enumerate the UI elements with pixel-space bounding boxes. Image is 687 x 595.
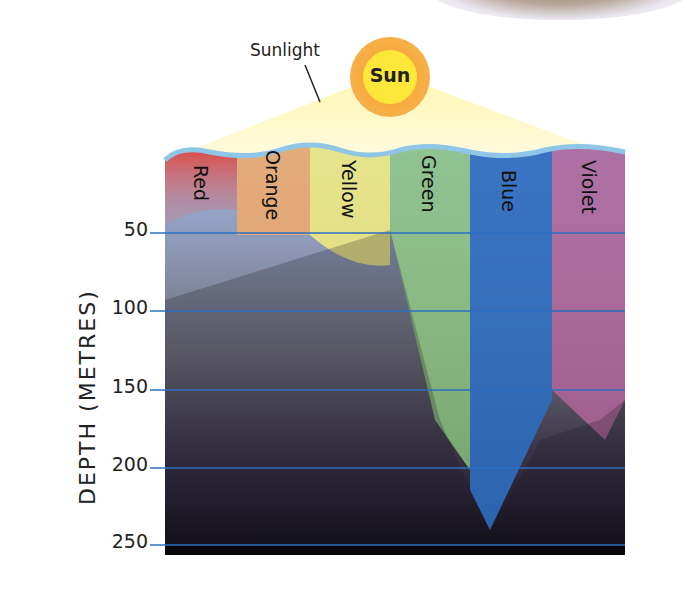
tick-150: 150 (88, 375, 148, 397)
sunlight-label: Sunlight (250, 40, 320, 60)
tick-100: 100 (88, 296, 148, 318)
colour-label-orange: Orange (262, 150, 284, 220)
colour-label-green: Green (418, 155, 440, 213)
tick-250: 250 (88, 530, 148, 552)
tick-200: 200 (88, 453, 148, 475)
sunlight-pointer (305, 65, 320, 102)
colour-label-violet: Violet (578, 160, 600, 214)
tick-50: 50 (88, 218, 148, 240)
colour-label-blue: Blue (498, 170, 520, 212)
colour-label-yellow: Yellow (338, 160, 360, 219)
sun-label: Sun (350, 64, 430, 86)
colour-label-red: Red (190, 165, 212, 201)
